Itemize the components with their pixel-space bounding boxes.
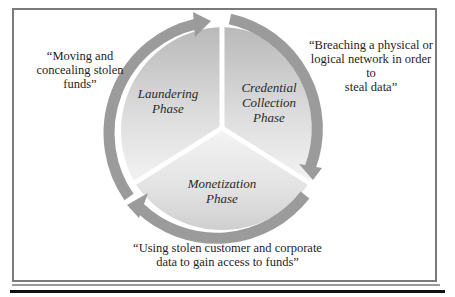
label-line: Phase xyxy=(128,101,208,116)
desc-line: “Breaching a physical or xyxy=(306,38,436,52)
bottom-rule-thin xyxy=(12,284,440,286)
description-laundering: “Moving and concealing stolen funds” xyxy=(30,49,130,91)
label-monetization-phase: Monetization Phase xyxy=(172,176,272,206)
description-credential: “Breaching a physical or logical network… xyxy=(306,38,436,94)
label-credential-phase: Credential Collection Phase xyxy=(228,80,310,125)
desc-line: “Moving and xyxy=(30,49,130,63)
desc-line: logical network in order to xyxy=(306,52,436,80)
desc-line: data to gain access to funds” xyxy=(100,255,355,269)
desc-line: steal data” xyxy=(306,80,436,94)
label-line: Phase xyxy=(228,110,310,125)
description-monetization: “Using stolen customer and corporate dat… xyxy=(100,241,355,269)
label-laundering-phase: Laundering Phase xyxy=(128,86,208,116)
bottom-rule-thick xyxy=(10,290,445,293)
label-line: Monetization xyxy=(172,176,272,191)
desc-line: concealing stolen xyxy=(30,63,130,77)
desc-line: “Using stolen customer and corporate xyxy=(100,241,355,255)
desc-line: funds” xyxy=(30,77,130,91)
label-line: Phase xyxy=(172,191,272,206)
label-line: Credential xyxy=(228,80,310,95)
label-line: Collection xyxy=(228,95,310,110)
label-line: Laundering xyxy=(128,86,208,101)
